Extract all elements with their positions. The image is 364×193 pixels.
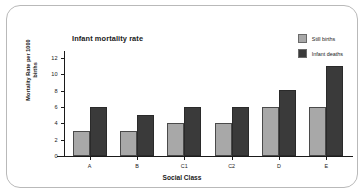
bar-b-still-births[interactable] xyxy=(120,131,137,155)
bar-group-c1: C1 xyxy=(161,51,208,156)
y-axis-tick-label: 0 xyxy=(54,153,57,159)
bar-b-infant-deaths[interactable] xyxy=(137,115,154,156)
bar-a-still-births[interactable] xyxy=(73,131,90,155)
y-axis-tick-label: 6 xyxy=(54,104,57,110)
x-axis-label-e: E xyxy=(324,163,328,169)
x-axis-tick xyxy=(232,156,233,160)
bar-e-still-births[interactable] xyxy=(309,107,326,156)
y-axis-tick: 10 xyxy=(61,74,65,75)
x-axis-label-c2: C2 xyxy=(228,163,235,169)
bar-group-c2: C2 xyxy=(208,51,255,156)
bar-c1-still-births[interactable] xyxy=(167,123,184,156)
bar-group-d: D xyxy=(255,51,302,156)
bar-groups: ABC1C2DE xyxy=(66,51,350,156)
x-axis-label-a: A xyxy=(88,163,92,169)
bar-d-infant-deaths[interactable] xyxy=(279,90,296,155)
chart-frame: Infant mortality rate Still births Infan… xyxy=(6,5,358,188)
bar-c2-infant-deaths[interactable] xyxy=(232,107,249,156)
x-axis-label-c1: C1 xyxy=(181,163,188,169)
bar-d-still-births[interactable] xyxy=(262,107,279,156)
chart-title: Infant mortality rate xyxy=(72,34,143,43)
legend-item-still-births[interactable]: Still births xyxy=(298,34,343,43)
y-axis-tick-label: 8 xyxy=(54,88,57,94)
y-axis-tick: 4 xyxy=(61,123,65,124)
legend-swatch-still-births xyxy=(298,34,307,43)
x-axis-title: Social Class xyxy=(7,174,357,181)
y-axis-tick: 0 xyxy=(61,156,65,157)
bar-e-infant-deaths[interactable] xyxy=(326,66,343,156)
x-axis-tick xyxy=(279,156,280,160)
y-axis-tick-label: 12 xyxy=(51,55,57,61)
x-axis-tick xyxy=(90,156,91,160)
legend-label-still-births: Still births xyxy=(312,36,335,42)
x-axis-tick xyxy=(326,156,327,160)
x-axis-line xyxy=(57,156,353,157)
bar-a-infant-deaths[interactable] xyxy=(90,107,107,156)
bar-group-b: B xyxy=(113,51,160,156)
y-axis-title: Mortality Rate per 1000 births xyxy=(25,33,39,107)
bar-group-e: E xyxy=(303,51,350,156)
x-axis-label-b: B xyxy=(135,163,139,169)
bar-c1-infant-deaths[interactable] xyxy=(184,107,201,156)
x-axis-label-d: D xyxy=(277,163,281,169)
bar-c2-still-births[interactable] xyxy=(215,123,232,156)
x-axis-tick xyxy=(184,156,185,160)
y-axis-tick: 12 xyxy=(61,58,65,59)
y-axis-tick: 8 xyxy=(61,91,65,92)
bar-group-a: A xyxy=(66,51,113,156)
plot-area: 024681012 ABC1C2DE xyxy=(64,51,302,157)
y-axis-tick-label: 2 xyxy=(54,137,57,143)
y-axis-tick: 6 xyxy=(61,107,65,108)
y-axis-tick-label: 10 xyxy=(51,71,57,77)
x-axis-tick xyxy=(137,156,138,160)
y-axis-tick-label: 4 xyxy=(54,120,57,126)
y-axis-tick: 2 xyxy=(61,140,65,141)
